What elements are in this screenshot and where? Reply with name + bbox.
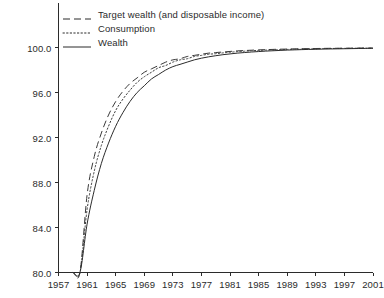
x-axis-tick-label: 1969	[133, 279, 155, 290]
x-axis-tick-label: 1977	[191, 279, 213, 290]
x-axis-tick-label: 1957	[48, 279, 70, 290]
y-axis-tick-label: 80.0	[33, 267, 52, 278]
legend-line-sample-dashed	[62, 10, 92, 20]
axis-ticks	[55, 48, 373, 277]
x-axis-tick-label: 1973	[162, 279, 184, 290]
legend-item: Target wealth (and disposable income)	[62, 8, 264, 21]
legend-line-sample-solid	[62, 38, 92, 48]
series-line-target-wealth-and-disposable-income	[59, 48, 374, 278]
x-axis-tick-label: 1997	[334, 279, 356, 290]
x-axis-tick-label: 1993	[305, 279, 327, 290]
data-series-group	[59, 48, 374, 278]
legend-item-label: Consumption	[98, 23, 155, 34]
legend-item: Consumption	[62, 22, 264, 35]
x-axis-tick-label: 1961	[76, 279, 98, 290]
chart-legend: Target wealth (and disposable income)Con…	[62, 8, 264, 49]
legend-item-label: Wealth	[98, 37, 128, 48]
legend-item: Wealth	[62, 36, 264, 49]
y-axis-tick-label: 88.0	[33, 177, 52, 188]
x-axis-tick-label: 1981	[219, 279, 241, 290]
x-axis-tick-label: 1985	[248, 279, 270, 290]
x-axis-tick-label: 1965	[105, 279, 127, 290]
legend-line-sample-dotted	[62, 24, 92, 34]
x-axis-tick-label: 2001	[362, 279, 384, 290]
legend-item-label: Target wealth (and disposable income)	[98, 9, 264, 20]
y-axis-tick-label: 100.0	[27, 42, 51, 53]
y-axis-tick-label: 84.0	[33, 222, 52, 233]
series-line-consumption	[59, 48, 374, 277]
series-line-wealth	[59, 48, 374, 276]
y-axis-tick-label: 92.0	[33, 132, 52, 143]
x-axis-tick-label: 1989	[276, 279, 298, 290]
y-axis-tick-label: 96.0	[33, 87, 52, 98]
